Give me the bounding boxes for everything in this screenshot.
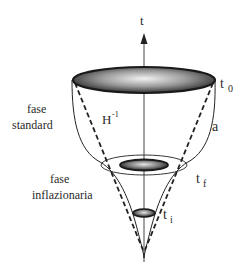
svg-text:i: i	[170, 214, 173, 225]
svg-text:t: t	[196, 171, 200, 186]
arrow-up-icon	[141, 33, 148, 44]
disk-ti	[133, 209, 155, 217]
svg-text:t: t	[220, 76, 224, 91]
label-scale-factor: a	[212, 119, 219, 134]
svg-text:H: H	[102, 112, 111, 127]
disk-t0	[73, 67, 215, 93]
inflation-cone-diagram: t t 0 t f t i H -1 a fase standard fase …	[0, 0, 247, 270]
svg-text:fase: fase	[50, 172, 69, 186]
label-tf: t f	[196, 171, 207, 189]
svg-text:0: 0	[228, 83, 233, 94]
svg-text:inflazionaria: inflazionaria	[32, 188, 93, 202]
label-phase-standard: fase standard	[12, 102, 53, 132]
label-hubble-radius: H -1	[102, 110, 119, 127]
svg-text:-1: -1	[112, 110, 119, 119]
axis-label-t: t	[140, 13, 144, 28]
svg-text:f: f	[203, 178, 207, 189]
disk-tf-inner	[120, 160, 168, 171]
svg-text:t: t	[163, 207, 167, 222]
svg-text:fase: fase	[27, 102, 46, 116]
label-ti: t i	[163, 207, 173, 225]
svg-text:standard: standard	[12, 118, 53, 132]
label-t0: t 0	[220, 76, 233, 94]
label-phase-inflationary: fase inflazionaria	[32, 172, 93, 202]
